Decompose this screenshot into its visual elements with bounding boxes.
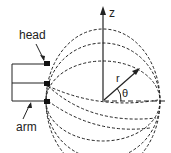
probe-arms: [12, 64, 46, 101]
angle-label: θ: [122, 87, 128, 99]
probe-head-bottom: [44, 99, 50, 104]
field-line-lower-2: [48, 86, 156, 119]
head-pointer-arrowhead: [40, 55, 45, 61]
arm-pointer-arrowhead: [27, 102, 32, 108]
radius-label: r: [116, 72, 120, 84]
probe-head-top: [44, 61, 50, 66]
arm-label: arm: [16, 120, 37, 134]
head-label: head: [19, 28, 46, 42]
probe-head-middle: [44, 81, 50, 86]
angle-arc: [117, 88, 121, 101]
z-axis-label: z: [109, 6, 115, 20]
z-axis-arrowhead: [100, 6, 106, 15]
field-line-lower-3: [48, 101, 150, 129]
field-diagram: head arm z r θ: [0, 0, 171, 153]
